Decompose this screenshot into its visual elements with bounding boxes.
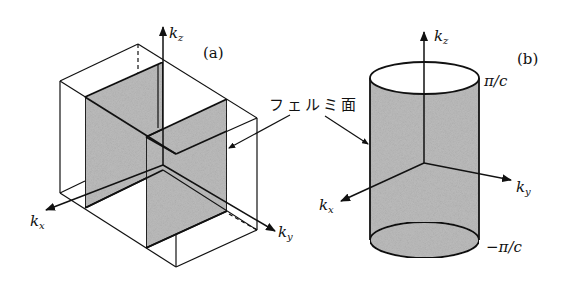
kz-label-b: kz — [434, 27, 449, 46]
ky-label-b: ky — [516, 178, 531, 197]
leader-arrow-left — [229, 115, 290, 148]
panel-label-a: (a) — [203, 44, 224, 62]
fermi-surface-label: フェルミ面 — [269, 96, 359, 114]
fermi-surface-figure: kz (a) kx ky フェルミ面 kz (b) π/c ky kx −π/c — [0, 0, 572, 287]
pi-over-c-top: π/c — [483, 72, 508, 90]
minus-pi-over-c-bottom: −π/c — [486, 238, 522, 256]
cylinder-bottom-cap — [370, 222, 479, 258]
leader-arrow-right — [325, 116, 368, 144]
kx-label-b: kx — [319, 196, 334, 215]
panel-label-b: (b) — [517, 50, 538, 68]
fermi-surface-annotation: フェルミ面 — [229, 96, 368, 148]
kz-label-a: kz — [169, 24, 184, 43]
panel-b: kz (b) π/c ky kx −π/c — [319, 27, 538, 258]
panel-a: kz (a) kx ky — [30, 24, 293, 267]
kx-label-a: kx — [30, 212, 45, 231]
ky-label-a: ky — [278, 223, 293, 242]
